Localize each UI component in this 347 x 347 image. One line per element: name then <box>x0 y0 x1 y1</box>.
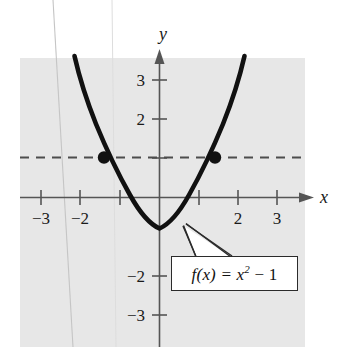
intersection-dot-right <box>209 151 221 163</box>
x-tick-label--3: −3 <box>32 209 50 228</box>
x-axis-label: x <box>319 187 328 207</box>
callout-suffix: − 1 <box>250 264 277 283</box>
x-tick-label-3: 3 <box>273 209 282 228</box>
y-tick-label-2: 2 <box>137 110 146 129</box>
y-tick-label-3: 3 <box>137 71 146 90</box>
function-callout-box: f(x) = x2 − 1 <box>171 256 298 291</box>
parabola-plot: −3 −2 2 3 3 2 −2 −3 x y <box>0 0 347 347</box>
callout-prefix: f(x) = x <box>192 264 245 283</box>
y-tick-label--3: −3 <box>127 306 145 325</box>
x-axis-arrow-icon <box>299 193 314 203</box>
function-callout-label: f(x) = x2 − 1 <box>192 263 278 285</box>
plot-panel-background <box>20 58 305 347</box>
intersection-dot-left <box>98 151 110 163</box>
figure-container: −3 −2 2 3 3 2 −2 −3 x y f(x) = x2 − 1 <box>0 0 347 347</box>
y-axis-label: y <box>157 24 167 44</box>
y-axis-arrow-icon <box>155 49 165 64</box>
x-tick-label-2: 2 <box>234 209 243 228</box>
x-tick-label--2: −2 <box>71 209 89 228</box>
y-tick-label--2: −2 <box>127 267 145 286</box>
